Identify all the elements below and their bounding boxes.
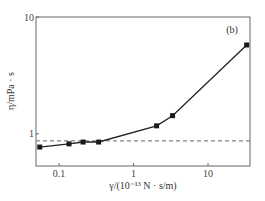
data-point-marker	[96, 140, 101, 145]
data-point-marker	[154, 123, 159, 128]
y-tick-label: 10	[24, 12, 34, 23]
x-tick-label: 0.1	[53, 168, 66, 179]
viscosity-chart: 0.1110110 (b) γ/(10⁻¹³ N · s/m) η/mPa · …	[0, 0, 265, 201]
data-point-marker	[170, 113, 175, 118]
data-point-marker	[244, 42, 249, 47]
data-point-marker	[37, 145, 42, 150]
y-tick-label: 1	[29, 128, 34, 139]
x-tick-label: 10	[203, 168, 213, 179]
x-tick-label: 1	[131, 168, 136, 179]
panel-label: (b)	[226, 24, 238, 36]
axis-ticks	[36, 17, 208, 166]
x-axis-label: γ/(10⁻¹³ N · s/m)	[108, 180, 176, 192]
data-markers	[37, 42, 249, 149]
y-axis-label: η/mPa · s	[5, 72, 16, 110]
data-point-marker	[67, 141, 72, 146]
tick-labels: 0.1110110	[24, 12, 213, 180]
data-point-marker	[81, 140, 86, 145]
data-series-line	[40, 45, 247, 147]
